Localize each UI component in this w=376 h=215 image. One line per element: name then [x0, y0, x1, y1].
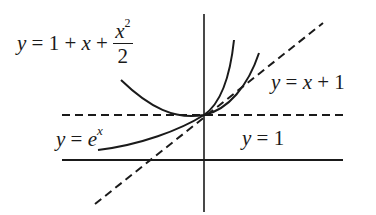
label-constant: y = 1	[242, 128, 284, 149]
label-linear-var: x	[303, 70, 312, 94]
label-const-rest: = 1	[251, 126, 284, 150]
fraction-x-squared-over-2: x2 2	[113, 20, 132, 67]
label-linear: y = x + 1	[271, 72, 345, 93]
label-exp-lhs: y	[56, 127, 65, 151]
fraction-num-var: x	[115, 19, 124, 43]
fraction-denominator: 2	[113, 44, 132, 67]
label-quadratic-lhs: y	[17, 31, 26, 55]
fraction-numerator: x2	[113, 20, 132, 43]
label-const-lhs: y	[242, 126, 251, 150]
label-exp-base: e	[88, 127, 97, 151]
label-linear-lhs: y	[271, 70, 280, 94]
label-quadratic-eq: =	[32, 31, 44, 55]
label-quadratic-terms: 1 +	[49, 31, 82, 55]
label-quadratic-plus: +	[91, 31, 113, 55]
label-linear-tail: + 1	[312, 70, 345, 94]
label-exponential: y = ex	[56, 127, 103, 150]
label-quadratic-var: x	[82, 31, 91, 55]
label-exp-exponent: x	[97, 123, 103, 138]
label-linear-eq: =	[280, 70, 302, 94]
label-quadratic: y = 1 + x + x2 2	[17, 22, 133, 69]
label-exp-eq: =	[65, 127, 87, 151]
curve-quadratic	[121, 53, 259, 116]
fraction-num-exp: 2	[125, 16, 131, 30]
